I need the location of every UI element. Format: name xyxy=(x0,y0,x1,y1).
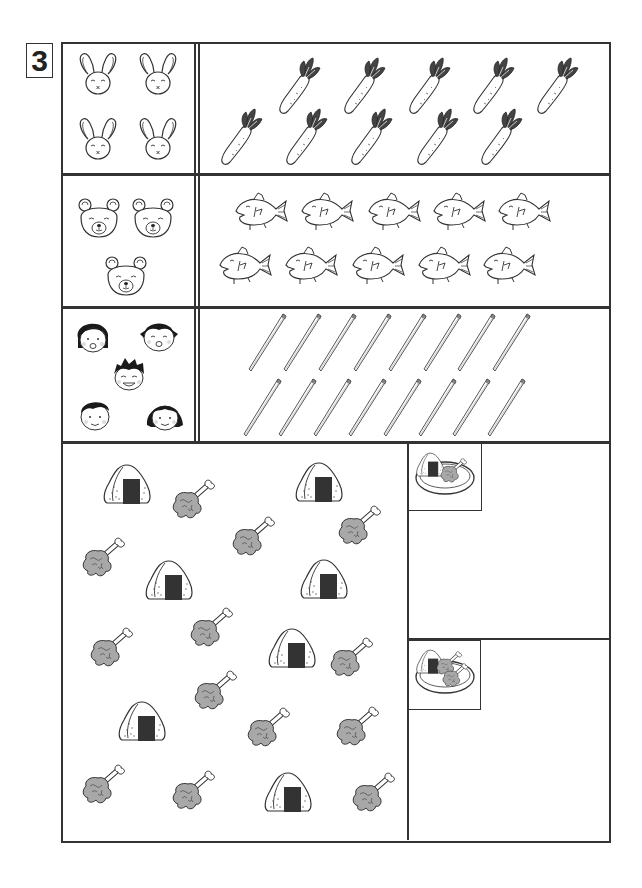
problem-number-badge: 3 xyxy=(26,43,53,78)
row-divider-1 xyxy=(62,173,610,176)
drumstick-icon xyxy=(170,479,218,521)
onigiri-icon xyxy=(118,700,166,744)
chopstick-icon xyxy=(487,378,527,438)
drumstick-icon xyxy=(192,670,240,712)
carrot-icon xyxy=(348,106,394,166)
fish-icon xyxy=(234,193,288,231)
onigiri-icon xyxy=(103,463,151,507)
plate-onigiri-two-drumsticks-icon xyxy=(413,649,477,697)
drumstick-icon xyxy=(245,707,293,749)
drumstick-icon xyxy=(350,772,398,814)
drumstick-icon xyxy=(170,770,218,812)
drumstick-icon xyxy=(328,637,376,679)
chopstick-icon xyxy=(313,378,353,438)
plate-onigiri-drumstick-icon xyxy=(413,452,477,498)
onigiri-icon xyxy=(145,559,193,603)
chopstick-icon xyxy=(457,313,497,373)
plate-set-2 xyxy=(408,640,481,710)
carrot-icon xyxy=(283,106,329,166)
onigiri-icon xyxy=(295,461,343,505)
bunny-icon xyxy=(77,52,119,96)
fish-icon xyxy=(497,193,551,231)
carrot-icon xyxy=(478,106,524,166)
answer-area-2[interactable] xyxy=(481,641,608,839)
column-divider-right-line xyxy=(198,44,200,442)
bunny-icon xyxy=(137,117,179,161)
chopstick-icon xyxy=(388,313,428,373)
fish-icon xyxy=(482,247,536,285)
child-face-icon xyxy=(138,316,180,354)
child-face-icon xyxy=(145,395,185,431)
chopstick-icon xyxy=(348,378,388,438)
onigiri-icon xyxy=(268,627,316,671)
drumstick-icon xyxy=(188,607,236,649)
drumstick-icon xyxy=(230,516,278,558)
drumstick-icon xyxy=(334,706,382,748)
fish-icon xyxy=(432,193,486,231)
chopstick-icon xyxy=(243,378,283,438)
chopstick-icon xyxy=(353,313,393,373)
child-face-icon xyxy=(77,395,113,431)
drumstick-icon xyxy=(80,537,128,579)
fish-icon xyxy=(218,247,272,285)
bear-icon xyxy=(77,197,121,239)
drumstick-icon xyxy=(80,764,128,806)
fish-icon xyxy=(284,247,338,285)
answer-area-1[interactable] xyxy=(482,444,608,638)
column-divider-left-line xyxy=(194,44,196,442)
child-face-icon xyxy=(111,356,147,392)
onigiri-icon xyxy=(300,558,348,602)
chopstick-icon xyxy=(383,378,423,438)
fish-icon xyxy=(351,247,405,285)
chopstick-icon xyxy=(278,378,318,438)
fish-icon xyxy=(417,247,471,285)
row-divider-2 xyxy=(62,306,610,309)
drumstick-icon xyxy=(88,627,136,669)
chopstick-icon xyxy=(452,378,492,438)
chopstick-icon xyxy=(248,313,288,373)
fish-icon xyxy=(300,193,354,231)
child-face-icon xyxy=(74,316,112,354)
fish-icon xyxy=(367,193,421,231)
chopstick-icon xyxy=(283,313,323,373)
carrot-icon xyxy=(414,106,460,166)
chopstick-icon xyxy=(318,313,358,373)
bunny-icon xyxy=(137,52,179,96)
bear-icon xyxy=(104,255,148,297)
onigiri-icon xyxy=(264,771,312,815)
carrot-icon xyxy=(218,106,264,166)
bunny-icon xyxy=(77,117,119,161)
bear-icon xyxy=(131,197,175,239)
carrot-icon xyxy=(534,55,580,115)
plate-set-1 xyxy=(408,443,482,511)
drumstick-icon xyxy=(336,505,384,547)
chopstick-icon xyxy=(492,313,532,373)
